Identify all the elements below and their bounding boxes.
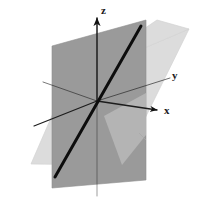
plane-intersection-figure: z y x [0, 0, 204, 203]
x-axis-label: x [164, 105, 170, 116]
figure-canvas [0, 0, 204, 203]
z-axis-label: z [101, 5, 106, 16]
y-axis-label: y [172, 70, 178, 81]
